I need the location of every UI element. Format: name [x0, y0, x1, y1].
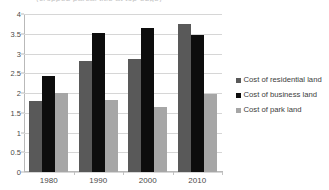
bar: [141, 28, 154, 172]
bar: [154, 107, 167, 172]
x-axis-tick-label: 1990: [89, 176, 107, 185]
legend-item[interactable]: Cost of residential land: [236, 73, 329, 87]
legend-item-label: Cost of business land: [244, 91, 318, 99]
plot-area: 00.511.522.533.54: [24, 14, 222, 172]
x-axis-tick-mark: [123, 172, 124, 175]
legend-swatch-icon: [236, 93, 241, 98]
chart-legend: Cost of residential landCost of business…: [236, 73, 329, 118]
bar: [191, 35, 204, 172]
y-axis-tick-label: 1: [17, 128, 21, 137]
legend-item-label: Cost of park land: [244, 106, 302, 114]
bar: [92, 33, 105, 172]
bar: [105, 100, 118, 172]
bar: [128, 59, 141, 172]
y-axis-tick-label: 0.5: [11, 148, 21, 157]
x-axis-tick-label: 2000: [139, 176, 157, 185]
bar-group: [74, 14, 124, 172]
bar: [178, 24, 191, 172]
x-axis-tick-label: 1980: [40, 176, 58, 185]
x-axis-tick-label: 2010: [188, 176, 206, 185]
y-axis-tick-label: 2.5: [11, 69, 21, 78]
bar: [42, 76, 55, 172]
y-axis-tick-label: 3.5: [11, 29, 21, 38]
bar-group: [123, 14, 173, 172]
legend-swatch-icon: [236, 78, 241, 83]
legend-item-label: Cost of residential land: [244, 76, 322, 84]
legend-item[interactable]: Cost of business land: [236, 88, 329, 102]
bar-group: [24, 14, 74, 172]
chart-title: (cropped partial title at top edge): [36, 0, 216, 2]
y-axis-tick-label: 3: [17, 49, 21, 58]
bar: [29, 101, 42, 172]
x-axis-tick-mark: [173, 172, 174, 175]
y-axis-tick-label: 2: [17, 89, 21, 98]
bar: [79, 61, 92, 172]
bar-group: [173, 14, 223, 172]
x-axis-tick-mark: [222, 172, 223, 175]
bar: [55, 93, 68, 172]
legend-item[interactable]: Cost of park land: [236, 103, 329, 117]
x-axis-tick-mark: [74, 172, 75, 175]
y-axis-tick-label: 1.5: [11, 108, 21, 117]
bar: [204, 94, 217, 172]
bar-chart: (cropped partial title at top edge) 00.5…: [0, 0, 329, 190]
y-axis-tick-label: 4: [17, 10, 21, 19]
legend-swatch-icon: [236, 108, 241, 113]
y-axis-tick-label: 0: [17, 168, 21, 177]
